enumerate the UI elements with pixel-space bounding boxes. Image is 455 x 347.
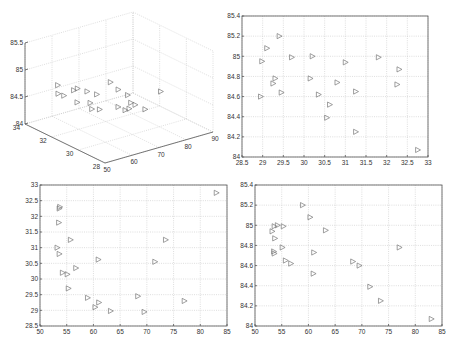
y-tick-label: 33 bbox=[31, 181, 39, 188]
scatter-plot-x-vs-z: 50556065707580858484.284.484.684.88585.2… bbox=[240, 181, 446, 335]
data-point-marker bbox=[416, 147, 421, 152]
y-tick-label: 84.8 bbox=[227, 73, 240, 80]
y-tick-label: 28.5 bbox=[25, 322, 38, 329]
x-tick-label: 29.5 bbox=[277, 159, 290, 166]
x-tick-label: 65 bbox=[117, 328, 125, 335]
x-tick-label: 55 bbox=[63, 328, 71, 335]
data-point-marker bbox=[354, 129, 359, 134]
x-tick-label: 31 bbox=[342, 159, 350, 166]
data-point-marker bbox=[265, 46, 270, 51]
data-point-marker bbox=[308, 215, 313, 220]
data-point-marker bbox=[108, 80, 113, 85]
y-tick-label: 84.8 bbox=[240, 242, 253, 249]
data-point-marker bbox=[290, 55, 295, 60]
x-tick-label: 30 bbox=[300, 159, 308, 166]
data-point-marker bbox=[143, 107, 148, 112]
data-point-marker bbox=[316, 92, 321, 97]
data-point-marker bbox=[325, 115, 330, 120]
data-point-marker bbox=[60, 270, 65, 275]
x-tick-label: 90 bbox=[211, 135, 219, 142]
y-tick-label: 84 bbox=[246, 322, 254, 329]
data-point-marker bbox=[376, 55, 381, 60]
x-tick-label: 32.5 bbox=[401, 159, 414, 166]
x-tick-label: 31.5 bbox=[360, 159, 373, 166]
data-point-marker bbox=[279, 90, 284, 95]
data-point-marker bbox=[158, 89, 163, 94]
y-tick-label: 84 bbox=[233, 153, 241, 160]
x-tick-label: 70 bbox=[358, 328, 366, 335]
data-point-marker bbox=[56, 91, 61, 96]
data-point-marker bbox=[163, 237, 168, 242]
data-point-marker bbox=[260, 59, 265, 64]
y-tick-label: 31.5 bbox=[25, 228, 38, 235]
data-point-marker bbox=[90, 106, 95, 111]
y-tick-label: 84.4 bbox=[240, 282, 253, 289]
plot-area bbox=[242, 16, 428, 157]
data-point-marker bbox=[429, 316, 434, 321]
y-tick-label: 28 bbox=[93, 163, 101, 170]
data-point-marker bbox=[65, 272, 70, 277]
data-point-marker bbox=[68, 237, 73, 242]
data-point-marker bbox=[72, 88, 77, 93]
x-tick-label: 60 bbox=[130, 158, 138, 165]
y-tick-label: 30 bbox=[31, 275, 39, 282]
data-point-marker bbox=[281, 224, 286, 229]
x-tick-label: 33 bbox=[424, 159, 432, 166]
data-point-marker bbox=[354, 89, 359, 94]
x-tick-label: 30.5 bbox=[318, 159, 331, 166]
data-point-marker bbox=[335, 80, 340, 85]
data-point-marker bbox=[343, 60, 348, 65]
scatter-plot-x-vs-y: 505560657075808528.52929.53030.53131.532… bbox=[25, 181, 231, 335]
x-tick-label: 50 bbox=[103, 166, 111, 173]
data-point-marker bbox=[93, 305, 98, 310]
data-point-marker bbox=[95, 92, 100, 97]
data-point-marker bbox=[127, 106, 132, 111]
x-tick-label: 60 bbox=[90, 328, 98, 335]
data-point-marker bbox=[357, 263, 362, 268]
x-tick-label: 75 bbox=[385, 328, 393, 335]
data-point-marker bbox=[328, 102, 333, 107]
data-point-marker bbox=[74, 265, 79, 270]
data-point-marker bbox=[273, 236, 278, 241]
x-tick-label: 85 bbox=[438, 328, 446, 335]
x-tick-label: 80 bbox=[412, 328, 420, 335]
x-tick-label: 85 bbox=[223, 328, 231, 335]
data-point-marker bbox=[351, 259, 356, 264]
x-tick-label: 80 bbox=[197, 328, 205, 335]
y-tick-label: 29.5 bbox=[25, 291, 38, 298]
y-tick-label: 32.5 bbox=[25, 197, 38, 204]
y-tick-label: 84.4 bbox=[227, 113, 240, 120]
y-tick-label: 30.5 bbox=[25, 260, 38, 267]
data-point-marker bbox=[214, 190, 219, 195]
data-point-marker bbox=[270, 229, 275, 234]
x-tick-label: 55 bbox=[278, 328, 286, 335]
y-tick-label: 85.2 bbox=[227, 32, 240, 39]
data-point-marker bbox=[108, 308, 113, 313]
z-tick-label: 85.5 bbox=[10, 39, 23, 46]
scatter3d-plot: 5060708090283032348484.58585.5 bbox=[10, 12, 219, 173]
y-tick-label: 31 bbox=[31, 244, 39, 251]
y-tick-label: 29 bbox=[31, 307, 39, 314]
x-tick-label: 70 bbox=[157, 151, 165, 158]
data-point-marker bbox=[133, 102, 138, 107]
x-tick-label: 75 bbox=[170, 328, 178, 335]
y-tick-label: 32 bbox=[39, 137, 47, 144]
y-tick-label: 85 bbox=[246, 222, 254, 229]
data-point-marker bbox=[312, 250, 317, 255]
data-point-marker bbox=[182, 298, 187, 303]
data-point-marker bbox=[368, 284, 373, 289]
data-point-marker bbox=[85, 89, 90, 94]
y-tick-label: 30 bbox=[66, 150, 74, 157]
x-tick-label: 32 bbox=[383, 159, 391, 166]
x-tick-label: 29 bbox=[259, 159, 267, 166]
y-tick-label: 85.4 bbox=[227, 12, 240, 19]
x-tick-label: 80 bbox=[184, 143, 192, 150]
data-point-marker bbox=[75, 100, 80, 105]
scatter-plot-y-vs-z: 28.52929.53030.53131.53232.5338484.284.4… bbox=[227, 12, 432, 166]
y-tick-label: 84.6 bbox=[227, 93, 240, 100]
data-point-marker bbox=[395, 82, 400, 87]
y-tick-label: 84.2 bbox=[240, 302, 253, 309]
y-tick-label: 85 bbox=[233, 53, 241, 60]
data-point-marker bbox=[125, 93, 130, 98]
figure: 5060708090283032348484.58585.5 28.52929.… bbox=[0, 0, 455, 347]
